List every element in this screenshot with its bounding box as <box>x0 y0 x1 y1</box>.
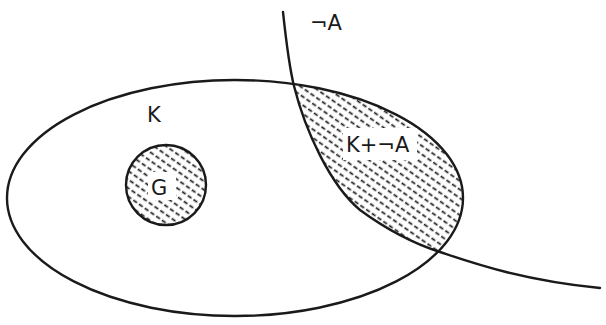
set-diagram: ¬A K G K+¬A <box>0 0 606 325</box>
label-k-revised-by-not-a: K+¬A <box>346 133 410 157</box>
label-k: K <box>147 103 162 127</box>
label-g: G <box>151 176 167 200</box>
label-not-a: ¬A <box>310 11 343 35</box>
